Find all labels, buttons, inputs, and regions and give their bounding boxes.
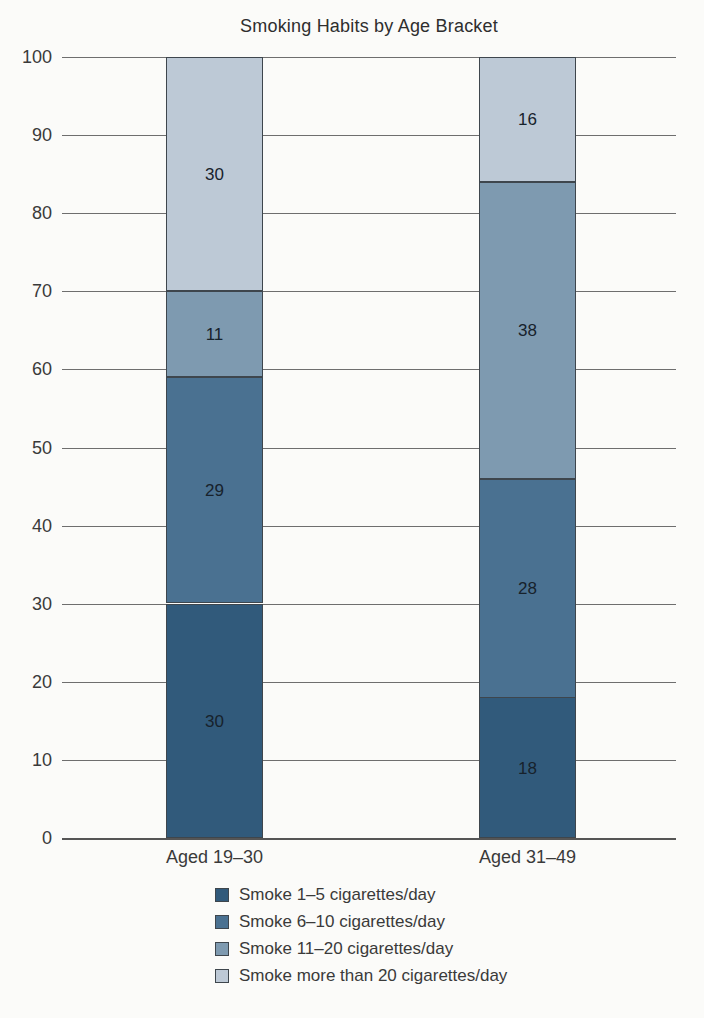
gridline — [62, 369, 676, 370]
legend-swatch-icon — [215, 915, 229, 929]
segment-value-label: 11 — [166, 326, 263, 343]
legend-item: Smoke more than 20 cigarettes/day — [215, 967, 507, 985]
gridline — [62, 135, 676, 136]
gridline — [62, 526, 676, 527]
gridline — [62, 448, 676, 449]
gridline — [62, 604, 676, 605]
legend-item-label: Smoke 6–10 cigarettes/day — [239, 912, 445, 932]
legend-item-label: Smoke more than 20 cigarettes/day — [239, 966, 507, 986]
segment-value-label: 30 — [166, 713, 263, 730]
gridline — [62, 213, 676, 214]
y-axis-tick-label: 30 — [4, 595, 52, 613]
gridline — [62, 57, 676, 58]
segment-value-label: 16 — [479, 111, 576, 128]
gridline — [62, 291, 676, 292]
legend-item: Smoke 11–20 cigarettes/day — [215, 940, 453, 958]
legend-item-label: Smoke 11–20 cigarettes/day — [239, 939, 453, 959]
segment-value-label: 28 — [479, 580, 576, 597]
legend-item-label: Smoke 1–5 cigarettes/day — [239, 885, 436, 905]
x-axis-category-label: Aged 19–30 — [135, 847, 295, 868]
gridline — [62, 760, 676, 761]
y-axis-tick-label: 0 — [4, 829, 52, 847]
legend-item: Smoke 1–5 cigarettes/day — [215, 886, 436, 904]
legend-swatch-icon — [215, 942, 229, 956]
legend-item: Smoke 6–10 cigarettes/day — [215, 913, 445, 931]
y-axis-tick-label: 40 — [4, 517, 52, 535]
y-axis-tick-label: 100 — [4, 48, 52, 66]
x-axis-category-label: Aged 31–49 — [448, 847, 608, 868]
segment-value-label: 30 — [166, 166, 263, 183]
y-axis-tick-label: 10 — [4, 751, 52, 769]
segment-value-label: 38 — [479, 322, 576, 339]
legend-swatch-icon — [215, 969, 229, 983]
chart-title: Smoking Habits by Age Bracket — [62, 16, 676, 37]
y-axis-tick-label: 20 — [4, 673, 52, 691]
stacked-bar-chart: Smoking Habits by Age Bracket 0102030405… — [0, 0, 704, 1018]
gridline — [62, 838, 676, 840]
segment-value-label: 18 — [479, 760, 576, 777]
segment-value-label: 29 — [166, 482, 263, 499]
y-axis-tick-label: 50 — [4, 439, 52, 457]
y-axis-tick-label: 60 — [4, 360, 52, 378]
y-axis-tick-label: 90 — [4, 126, 52, 144]
legend-swatch-icon — [215, 888, 229, 902]
y-axis-tick-label: 80 — [4, 204, 52, 222]
gridline — [62, 682, 676, 683]
y-axis-tick-label: 70 — [4, 282, 52, 300]
